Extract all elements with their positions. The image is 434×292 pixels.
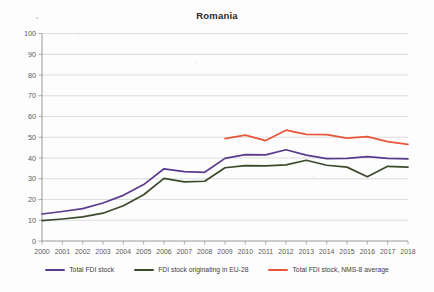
- x-axis-tick-label: 2001: [55, 248, 70, 255]
- legend-item[interactable]: FDI stock originating in EU-28: [134, 266, 248, 273]
- chart-container: Romania 0102030405060708090100 200020012…: [0, 0, 434, 292]
- x-axis-tick-label: 2006: [156, 248, 171, 255]
- x-axis-tick-label: 2016: [360, 248, 375, 255]
- y-axis-tick-label: 10: [28, 216, 36, 225]
- legend-item-label: Total FDI stock: [69, 266, 114, 273]
- y-axis-tick-label: 50: [28, 133, 36, 142]
- y-axis-ticks-group: 0102030405060708090100: [24, 29, 42, 246]
- x-axis-tick-label: 2004: [116, 248, 131, 255]
- x-axis-tick-label: 2012: [278, 248, 293, 255]
- gridlines-group: [42, 34, 408, 221]
- y-axis-tick-label: 0: [32, 237, 36, 246]
- x-axis-tick-label: 2011: [258, 248, 273, 255]
- scan-speck: [36, 17, 38, 19]
- x-axis-tick-label: 2007: [177, 248, 192, 255]
- legend-color-swatch: [45, 269, 65, 271]
- y-axis-tick-label: 70: [28, 91, 36, 100]
- x-axis-tick-label: 2018: [400, 248, 415, 255]
- chart-legend: Total FDI stockFDI stock originating in …: [0, 266, 434, 273]
- chart-plot-area: 0102030405060708090100 20002001200220032…: [0, 0, 434, 292]
- series-line: [42, 150, 408, 214]
- y-axis-tick-label: 80: [28, 71, 36, 80]
- x-axis-tick-label: 2003: [95, 248, 110, 255]
- legend-item-label: Total FDI stock, NMS-8 average: [292, 266, 388, 273]
- scan-speck: [196, 62, 197, 63]
- x-axis-tick-label: 2017: [380, 248, 395, 255]
- legend-item[interactable]: Total FDI stock, NMS-8 average: [268, 266, 388, 273]
- x-axis-tick-label: 2008: [197, 248, 212, 255]
- x-axis-tick-label: 2002: [75, 248, 90, 255]
- x-axis-tick-label: 2010: [238, 248, 253, 255]
- y-axis-tick-label: 100: [24, 29, 36, 38]
- y-axis-tick-label: 90: [28, 50, 36, 59]
- legend-color-swatch: [268, 269, 288, 271]
- y-axis-tick-label: 40: [28, 154, 36, 163]
- x-axis-tick-label: 2014: [319, 248, 334, 255]
- x-axis-tick-label: 2015: [339, 248, 354, 255]
- legend-item-label: FDI stock originating in EU-28: [158, 266, 248, 273]
- y-axis-tick-label: 20: [28, 195, 36, 204]
- series-line: [42, 160, 408, 220]
- x-axis-tick-label: 2000: [34, 248, 49, 255]
- x-axis-tick-label: 2013: [299, 248, 314, 255]
- legend-color-swatch: [134, 269, 154, 271]
- x-axis-tick-label: 2009: [217, 248, 232, 255]
- x-axis-tick-label: 2005: [136, 248, 151, 255]
- legend-item[interactable]: Total FDI stock: [45, 266, 114, 273]
- y-axis-tick-label: 60: [28, 112, 36, 121]
- scan-speck: [313, 176, 314, 177]
- data-series-group: [42, 130, 408, 220]
- x-axis-ticks-group: 2000200120022003200420052006200720082009…: [34, 241, 415, 255]
- y-axis-tick-label: 30: [28, 174, 36, 183]
